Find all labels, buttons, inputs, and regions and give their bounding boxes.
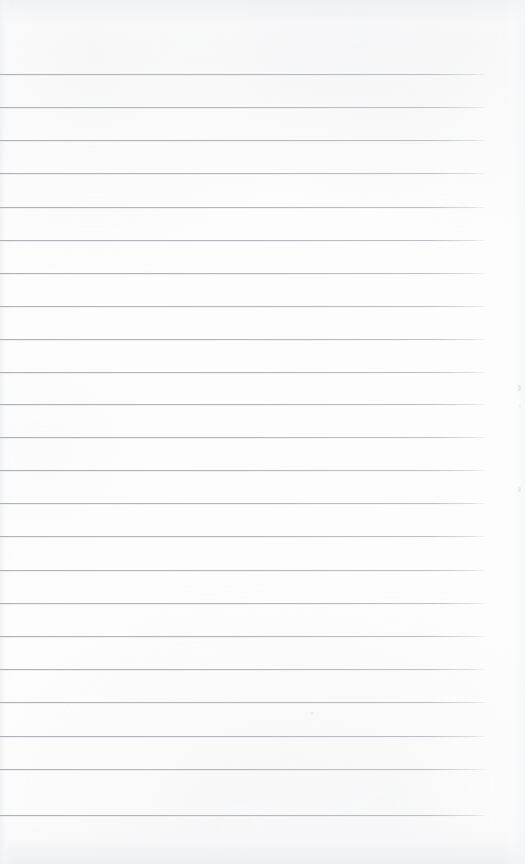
rule-line [0, 815, 488, 816]
rule-line [0, 207, 488, 208]
ruled-lines-layer [0, 0, 525, 864]
rule-line [0, 636, 488, 637]
rule-line [0, 470, 487, 471]
rule-line [0, 140, 488, 141]
rule-line [0, 306, 488, 307]
rule-line [0, 669, 487, 670]
scanned-page [0, 0, 525, 864]
rule-line [0, 107, 488, 108]
rule-line [0, 503, 488, 504]
rule-line [0, 173, 487, 174]
rule-line [0, 437, 488, 438]
rule-line [0, 273, 487, 274]
rule-line [0, 240, 488, 241]
rule-line [0, 769, 487, 770]
rule-line [0, 702, 488, 703]
rule-line [0, 570, 487, 571]
rule-line [0, 404, 488, 405]
rule-line [0, 736, 488, 737]
rule-line [0, 536, 488, 537]
rule-line [0, 372, 487, 373]
rule-line [0, 74, 488, 75]
rule-line [0, 603, 488, 604]
rule-line [0, 339, 488, 340]
